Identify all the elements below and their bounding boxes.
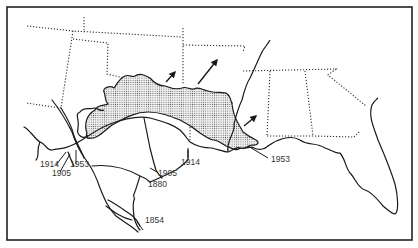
range-map: 1914 1953 1905 1914 1905 1880 1854 1953	[0, 0, 418, 248]
year-label: 1914	[181, 157, 200, 167]
year-label: 1905	[52, 168, 71, 178]
year-label: 1905	[158, 168, 177, 178]
year-label: 1854	[145, 215, 164, 225]
arrow-icon	[198, 60, 217, 84]
year-label: 1880	[148, 179, 167, 189]
arrow-icon	[166, 72, 175, 82]
shaded-range-area	[86, 74, 258, 149]
year-label: 1953	[70, 159, 89, 169]
year-labels: 1914 1953 1905 1914 1905 1880 1854 1953	[40, 154, 290, 225]
arrow-icon	[244, 116, 256, 126]
year-label: 1953	[271, 154, 290, 164]
